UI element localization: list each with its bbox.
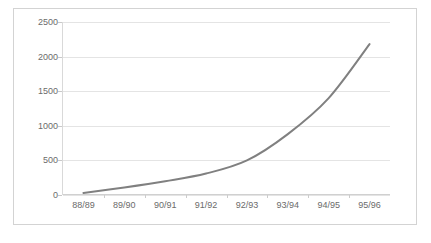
plot-area [63,22,390,195]
y-axis-tick-mark [58,22,62,23]
x-axis-tick-label: 89/90 [113,200,136,211]
line-chart: 05001000150020002500 88/8989/9090/9191/9… [0,0,431,243]
x-axis-tick-label: 94/95 [317,200,340,211]
x-axis-tick-mark [267,195,268,198]
y-axis-tick-label: 500 [43,155,58,165]
y-axis-tick-mark [58,160,62,161]
x-axis-tick-mark [349,195,350,198]
x-axis-tick-label: 91/92 [195,200,218,211]
y-axis-tick-labels: 05001000150020002500 [18,22,58,195]
x-axis-tick-mark [227,195,228,198]
y-axis-tick-mark [58,91,62,92]
series-line-group [63,22,390,195]
y-axis-tick-mark [58,57,62,58]
x-axis-tick-mark [308,195,309,198]
x-axis-tick-mark [104,195,105,198]
y-axis-tick-label: 2500 [38,17,58,27]
x-axis-tick-mark [186,195,187,198]
y-axis-tick-mark [58,195,62,196]
x-axis-tick-label: 95/96 [358,200,381,211]
x-axis-tick-label: 92/93 [236,200,259,211]
y-axis-tick-mark [58,126,62,127]
x-axis-tick-label: 88/89 [72,200,95,211]
series-line [83,44,369,193]
x-axis-tick-mark [145,195,146,198]
x-axis-tick-labels: 88/8989/9090/9191/9292/9393/9494/9595/96 [63,200,390,216]
x-axis-tick-label: 93/94 [277,200,300,211]
y-axis-tick-label: 2000 [38,52,58,62]
y-axis-tick-label: 1000 [38,121,58,131]
x-axis-tick-label: 90/91 [154,200,177,211]
y-axis-tick-label: 1500 [38,86,58,96]
y-axis-line [62,22,63,195]
